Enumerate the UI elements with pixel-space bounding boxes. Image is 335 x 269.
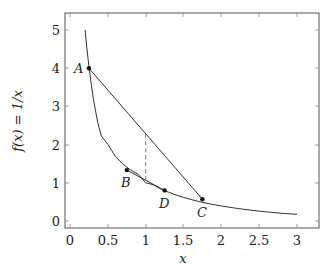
chart: 0 0.5 1 1.5 2 2.5 3 0 1 2 3 4 5 x f(x) =…: [0, 0, 335, 269]
plot-frame: [65, 13, 319, 228]
x-tick-label: 1: [142, 233, 150, 248]
point-a: [87, 66, 91, 70]
label-c: C: [197, 205, 207, 220]
point-b: [125, 168, 129, 172]
y-tick-label: 2: [52, 138, 60, 153]
y-tick-label: 1: [52, 176, 60, 191]
point-d: [162, 188, 166, 192]
label-b: B: [120, 175, 131, 190]
y-tick-labels: 0 1 2 3 4 5: [52, 23, 60, 229]
y-tick-label: 5: [52, 23, 60, 38]
y-ticks: [65, 30, 319, 221]
x-tick-label: 2: [217, 233, 225, 248]
x-tick-label: 1.5: [173, 233, 194, 248]
y-tick-label: 3: [52, 99, 60, 114]
y-tick-label: 0: [52, 214, 60, 229]
x-tick-labels: 0 0.5 1 1.5 2 2.5 3: [66, 233, 301, 248]
x-tick-label: 2.5: [249, 233, 270, 248]
x-axis-label: x: [179, 251, 187, 266]
x-ticks: [70, 13, 297, 228]
x-tick-label: 0: [66, 233, 74, 248]
x-tick-label: 3: [293, 233, 301, 248]
label-a: A: [73, 61, 83, 76]
x-tick-label: 0.5: [98, 233, 119, 248]
y-axis-label: f(x) = 1/x: [10, 90, 25, 153]
label-d: D: [158, 196, 170, 211]
point-c: [200, 197, 204, 201]
y-tick-label: 4: [52, 61, 60, 76]
